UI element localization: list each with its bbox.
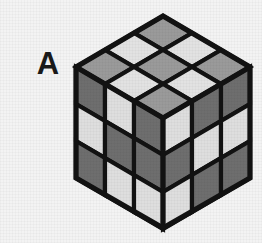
figure-canvas: A [0, 0, 262, 243]
figure-label-a: A [30, 48, 66, 79]
isometric-cube-graphic [0, 0, 262, 243]
